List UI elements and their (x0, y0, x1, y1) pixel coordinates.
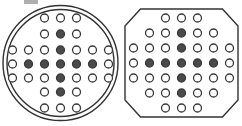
open-hole (105, 60, 113, 68)
open-hole (226, 59, 234, 67)
open-hole (73, 30, 81, 38)
filled-hole (178, 29, 186, 37)
circular-plate-hole-grid (9, 14, 113, 112)
open-hole (178, 14, 186, 22)
open-hole (162, 44, 170, 52)
filled-hole (178, 89, 186, 97)
open-hole (25, 46, 33, 54)
open-hole (130, 74, 138, 82)
open-hole (194, 104, 202, 112)
filled-hole (162, 59, 170, 67)
filled-hole (178, 74, 186, 82)
filled-hole (194, 59, 202, 67)
filled-hole (178, 44, 186, 52)
open-hole (25, 74, 33, 82)
open-hole (178, 104, 186, 112)
filled-hole (210, 59, 218, 67)
open-hole (41, 46, 49, 54)
open-hole (73, 104, 81, 112)
filled-hole (57, 60, 65, 68)
open-hole (226, 44, 234, 52)
open-hole (162, 74, 170, 82)
open-hole (105, 46, 113, 54)
open-hole (194, 44, 202, 52)
filled-hole (57, 30, 65, 38)
filled-hole (25, 60, 33, 68)
open-hole (146, 44, 154, 52)
filled-hole (41, 60, 49, 68)
open-hole (9, 74, 17, 82)
open-hole (210, 44, 218, 52)
open-hole (194, 74, 202, 82)
open-hole (73, 88, 81, 96)
open-hole (41, 74, 49, 82)
open-hole (9, 60, 17, 68)
octagonal-plate-panel (121, 0, 242, 126)
open-hole (89, 74, 97, 82)
open-hole (41, 88, 49, 96)
circular-plate-svg (0, 0, 121, 126)
open-hole (146, 89, 154, 97)
open-hole (41, 14, 49, 22)
filled-hole (57, 46, 65, 54)
open-hole (41, 104, 49, 112)
open-hole (9, 46, 17, 54)
open-hole (89, 46, 97, 54)
open-hole (194, 29, 202, 37)
filled-hole (73, 60, 81, 68)
circular-plate-panel (0, 0, 121, 126)
open-hole (226, 74, 234, 82)
open-hole (73, 46, 81, 54)
open-hole (146, 29, 154, 37)
open-hole (73, 14, 81, 22)
filled-hole (89, 60, 97, 68)
open-hole (162, 104, 170, 112)
open-hole (105, 74, 113, 82)
open-hole (210, 89, 218, 97)
filled-hole (57, 74, 65, 82)
open-hole (210, 29, 218, 37)
open-hole (210, 74, 218, 82)
octagonal-plate-hole-grid (130, 14, 234, 112)
open-hole (162, 89, 170, 97)
open-hole (162, 29, 170, 37)
open-hole (162, 14, 170, 22)
open-hole (41, 30, 49, 38)
open-hole (130, 44, 138, 52)
open-hole (146, 74, 154, 82)
open-hole (130, 59, 138, 67)
open-hole (73, 74, 81, 82)
filled-hole (178, 59, 186, 67)
open-hole (194, 14, 202, 22)
filled-hole (57, 88, 65, 96)
figure-root (0, 0, 242, 126)
open-hole (194, 89, 202, 97)
octagonal-plate-svg (121, 0, 242, 126)
open-hole (57, 104, 65, 112)
filled-hole (146, 59, 154, 67)
open-hole (57, 14, 65, 22)
